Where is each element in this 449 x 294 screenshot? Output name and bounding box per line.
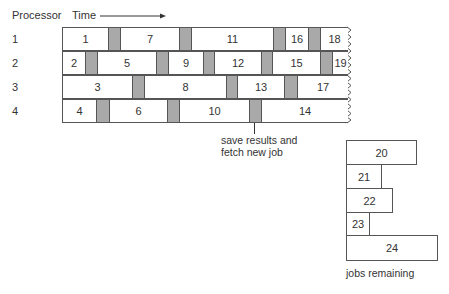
job-block-1: 1	[62, 27, 109, 51]
save-fetch-gap	[273, 27, 286, 51]
job-block-7: 7	[120, 27, 180, 51]
save-fetch-gap	[96, 99, 110, 123]
save-fetch-gap	[179, 27, 192, 51]
queue-caption: jobs remaining	[346, 267, 414, 279]
save-fetch-gap	[132, 75, 145, 99]
job-block-15: 15	[272, 51, 321, 75]
save-fetch-gap	[156, 51, 169, 75]
save-fetch-gap	[203, 51, 215, 75]
job-block-2: 2	[62, 51, 86, 75]
job-block-13: 13	[237, 75, 285, 99]
save-fetch-gap	[249, 99, 262, 123]
remaining-job-23: 23	[346, 212, 370, 236]
processor-label-3: 3	[12, 81, 18, 93]
processor-label-1: 1	[12, 33, 18, 45]
job-block-3: 3	[62, 75, 133, 99]
processor-label-4: 4	[12, 105, 18, 117]
job-block-6: 6	[109, 99, 168, 123]
job-block-19: 19	[332, 51, 348, 75]
job-block-14: 14	[261, 99, 348, 123]
job-block-18: 18	[320, 27, 348, 51]
job-block-9: 9	[168, 51, 204, 75]
save-fetch-gap	[85, 51, 98, 75]
remaining-job-21: 21	[346, 164, 382, 189]
job-block-12: 12	[214, 51, 262, 75]
job-block-5: 5	[97, 51, 157, 75]
save-fetch-gap	[108, 27, 121, 51]
job-block-8: 8	[144, 75, 227, 99]
remaining-job-22: 22	[346, 188, 393, 213]
job-block-10: 10	[179, 99, 250, 123]
save-fetch-gap	[226, 75, 238, 99]
save-fetch-gap	[261, 51, 273, 75]
save-fetch-gap	[167, 99, 180, 123]
job-block-17: 17	[297, 75, 348, 99]
annotation-text: save results and fetch new job	[221, 134, 297, 158]
annotation-line-1: save results and	[221, 134, 297, 146]
time-arrow-icon	[100, 14, 166, 19]
remaining-job-24: 24	[346, 235, 438, 261]
job-block-11: 11	[191, 27, 274, 51]
job-block-4: 4	[62, 99, 97, 123]
processor-label-2: 2	[12, 57, 18, 69]
save-fetch-gap	[284, 75, 298, 99]
save-fetch-gap	[320, 51, 333, 75]
annotation-line-2: fetch new job	[221, 146, 297, 158]
save-fetch-gap	[308, 27, 321, 51]
remaining-job-20: 20	[346, 140, 417, 165]
job-block-16: 16	[285, 27, 309, 51]
